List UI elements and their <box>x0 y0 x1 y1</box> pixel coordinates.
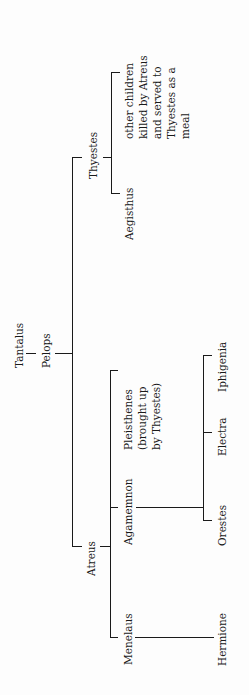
edge-menelaus-hermione <box>135 637 214 638</box>
node-other-children-l1: other children <box>123 63 135 139</box>
atreus-children-line <box>110 370 111 638</box>
node-other-children-l2: killed by Atreus <box>137 55 149 139</box>
edge-pelops-stub <box>55 353 73 354</box>
stub-thyestes <box>72 157 82 158</box>
node-other-children-l5: meal <box>179 113 191 139</box>
node-tantalus: Tantalus <box>13 323 25 368</box>
pelops-children-line <box>72 157 73 547</box>
stub-pleisthenes <box>110 370 118 371</box>
node-hermione: Hermione <box>216 613 228 666</box>
node-other-children-l3: and served to <box>151 67 163 139</box>
node-electra: Electra <box>216 417 228 456</box>
agamemnon-children-line <box>203 355 204 521</box>
stub-other-children <box>111 72 120 73</box>
thyestes-children-line <box>111 72 112 194</box>
family-tree-diagram: Tantalus Pelops Thyestes other children … <box>0 0 249 695</box>
stub-orestes <box>203 520 212 521</box>
edge-agamemnon-children <box>136 507 204 508</box>
edge-tantalus-pelops <box>26 353 36 354</box>
node-thyestes: Thyestes <box>87 132 99 179</box>
stub-iphigenia <box>203 355 212 356</box>
stub-agamemnon <box>110 507 118 508</box>
node-agamemnon: Agamemnon <box>122 478 134 545</box>
node-orestes: Orestes <box>216 505 228 546</box>
node-aegisthus: Aegisthus <box>123 188 135 240</box>
node-pelops: Pelops <box>40 333 52 368</box>
node-pleisthenes-l1: Pleisthenes <box>122 389 134 450</box>
node-pleisthenes-l3: by Thyestes) <box>150 383 162 450</box>
node-atreus: Atreus <box>85 541 97 576</box>
stub-menelaus <box>110 637 118 638</box>
stub-aegisthus <box>111 193 120 194</box>
node-menelaus: Menelaus <box>122 613 134 665</box>
node-other-children-l4: Thyestes as a <box>165 67 177 139</box>
stub-electra <box>203 432 212 433</box>
node-pleisthenes-l2: (brought up <box>136 387 148 450</box>
node-iphigenia: Iphigenia <box>216 342 228 392</box>
stub-atreus <box>72 546 82 547</box>
